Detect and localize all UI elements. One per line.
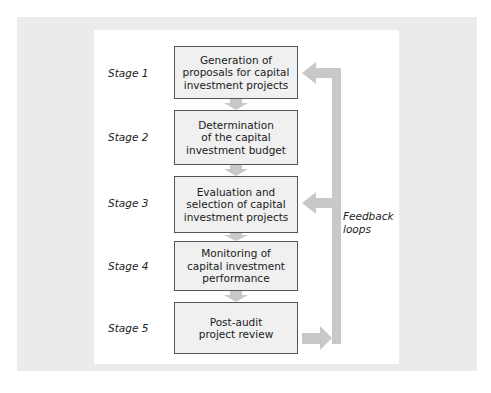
- box-text-line: proposals for capital: [183, 66, 290, 79]
- box-text-line: Evaluation and: [184, 186, 289, 199]
- stage-label-4: Stage 4: [108, 260, 168, 272]
- stage-label-2: Stage 2: [108, 131, 168, 143]
- stage-box-4: Monitoring of capital investment perform…: [174, 241, 298, 291]
- box-text-line: selection of capital: [184, 198, 289, 211]
- box-text-line: Monitoring of: [187, 247, 285, 260]
- stage-box-3: Evaluation and selection of capital inve…: [174, 176, 298, 233]
- box-text-line: Determination: [186, 119, 286, 132]
- box-text-line: Generation of: [183, 54, 290, 67]
- box-text-line: investment projects: [183, 79, 290, 92]
- box-text-line: investment projects: [184, 211, 289, 224]
- down-arrow-1-2: [224, 99, 248, 110]
- feedback-label-line: loops: [343, 223, 394, 236]
- down-arrow-3-4: [224, 233, 248, 241]
- feedback-loops-label: Feedback loops: [343, 210, 394, 235]
- box-text-line: performance: [187, 272, 285, 285]
- stage-box-2: Determination of the capital investment …: [174, 110, 298, 165]
- down-arrow-2-3: [224, 165, 248, 176]
- box-text-line: investment budget: [186, 144, 286, 157]
- down-arrow-4-5: [224, 291, 248, 302]
- box-text-line: capital investment: [187, 260, 285, 273]
- box-text-line: of the capital: [186, 131, 286, 144]
- stage-label-3: Stage 3: [108, 197, 168, 209]
- box-text-line: project review: [199, 328, 274, 341]
- feedback-loop-arrow: [302, 62, 341, 350]
- stage-box-5: Post-audit project review: [174, 302, 298, 354]
- stage-label-1: Stage 1: [108, 67, 168, 79]
- stage-box-1: Generation of proposals for capital inve…: [174, 46, 298, 99]
- stage-label-5: Stage 5: [108, 322, 168, 334]
- box-text-line: Post-audit: [199, 316, 274, 329]
- feedback-label-line: Feedback: [343, 210, 394, 223]
